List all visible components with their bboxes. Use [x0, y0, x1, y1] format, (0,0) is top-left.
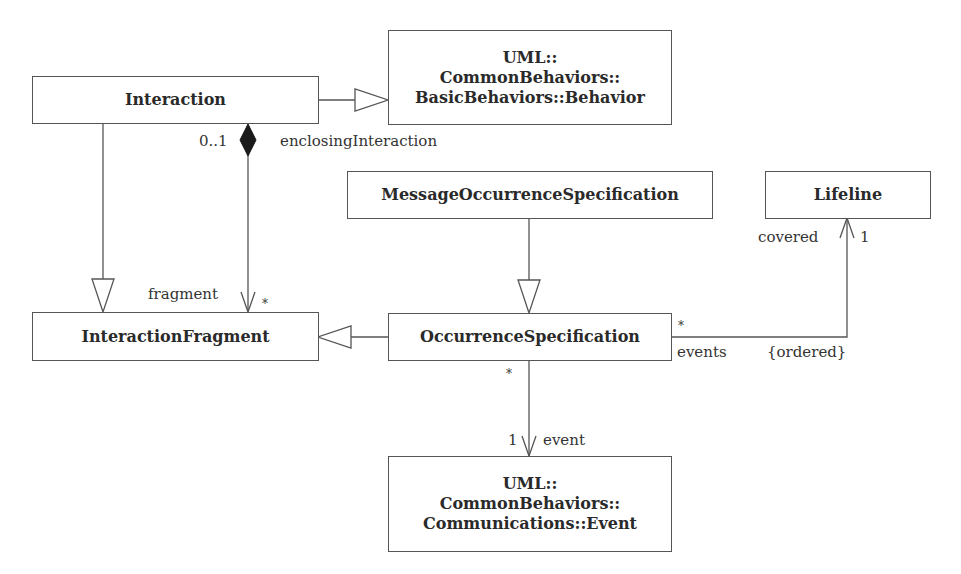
fragment-role-label: fragment: [148, 286, 218, 302]
event-multiplicity-label: 1: [508, 432, 518, 448]
class-name-line: CommonBehaviors::: [440, 494, 621, 514]
generalization-arrow-icon: [92, 279, 114, 312]
generalization-arrow-icon: [518, 280, 540, 313]
class-name: OccurrenceSpecification: [420, 327, 640, 347]
class-name: InteractionFragment: [81, 327, 269, 347]
covered-role-label: covered: [758, 229, 818, 245]
os-event-source-multiplicity-label: *: [506, 366, 512, 382]
class-name-line: UML::: [503, 474, 558, 494]
class-interaction: Interaction: [32, 76, 319, 124]
class-name: Interaction: [125, 90, 226, 110]
events-multiplicity-label: *: [678, 318, 684, 334]
ordered-constraint-label: {ordered}: [767, 344, 846, 360]
class-name: MessageOccurrenceSpecification: [381, 185, 679, 205]
class-name-line: CommonBehaviors::: [440, 68, 621, 88]
class-message-occurrence-specification: MessageOccurrenceSpecification: [347, 171, 713, 219]
class-behavior: UML:: CommonBehaviors:: BasicBehaviors::…: [388, 30, 672, 125]
class-lifeline: Lifeline: [765, 171, 931, 219]
generalization-arrow-icon: [318, 326, 351, 348]
fragment-multiplicity-label: *: [262, 296, 268, 312]
class-event: UML:: CommonBehaviors:: Communications::…: [388, 456, 672, 552]
generalization-arrow-icon: [355, 89, 388, 111]
class-interaction-fragment: InteractionFragment: [32, 312, 319, 361]
event-role-label: event: [543, 432, 585, 448]
class-occurrence-specification: OccurrenceSpecification: [388, 313, 672, 361]
covered-multiplicity-label: 1: [860, 229, 870, 245]
enclosing-multiplicity-label: 0..1: [199, 133, 228, 149]
class-name-line: Communications::Event: [423, 514, 637, 534]
events-role-label: events: [677, 344, 727, 360]
class-name-line: UML::: [503, 48, 558, 68]
uml-diagram: Interaction UML:: CommonBehaviors:: Basi…: [0, 0, 961, 574]
class-name: Lifeline: [814, 185, 882, 205]
composition-diamond-icon: [240, 124, 256, 156]
enclosing-role-label: enclosingInteraction: [280, 133, 437, 149]
class-name-line: BasicBehaviors::Behavior: [415, 88, 645, 108]
